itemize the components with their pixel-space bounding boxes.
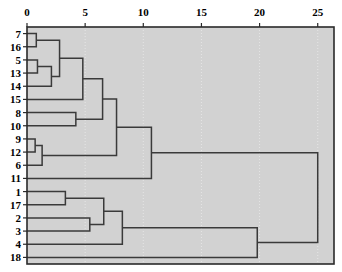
leaf-label-1: 1: [0, 186, 21, 197]
leaf-label-18: 18: [0, 252, 21, 263]
leaf-label-9: 9: [0, 133, 21, 144]
leaf-label-4: 4: [0, 239, 21, 250]
leaf-label-13: 13: [0, 68, 21, 79]
leaf-label-6: 6: [0, 160, 21, 171]
x-tick-label-20: 20: [254, 7, 265, 18]
x-tick-label-10: 10: [138, 7, 149, 18]
leaf-label-14: 14: [0, 81, 21, 92]
dendrogram-figure: 0510152025 716513141581091261111723418: [0, 0, 342, 272]
leaf-label-12: 12: [0, 147, 21, 158]
leaf-label-10: 10: [0, 120, 21, 131]
x-tick-label-0: 0: [24, 7, 30, 18]
leaf-label-11: 11: [0, 173, 21, 184]
leaf-label-2: 2: [0, 212, 21, 223]
leaf-label-15: 15: [0, 94, 21, 105]
x-tick-label-15: 15: [196, 7, 207, 18]
leaf-label-8: 8: [0, 107, 21, 118]
leaf-label-7: 7: [0, 28, 21, 39]
leaf-label-17: 17: [0, 199, 21, 210]
x-tick-label-25: 25: [312, 7, 323, 18]
x-tick-label-5: 5: [82, 7, 88, 18]
dendrogram-plot: [0, 0, 342, 272]
leaf-label-3: 3: [0, 226, 21, 237]
leaf-label-5: 5: [0, 54, 21, 65]
leaf-label-16: 16: [0, 41, 21, 52]
